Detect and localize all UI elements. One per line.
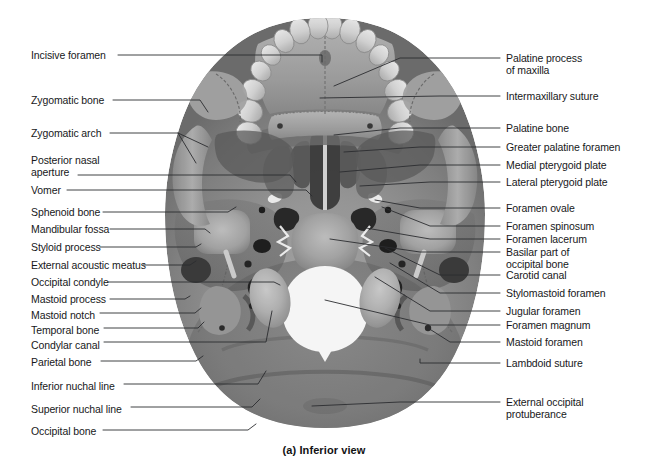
label-zygomatic-arch: Zygomatic arch [31, 128, 101, 140]
label-mandibular-fossa: Mandibular fossa [31, 224, 109, 236]
label-external-occipital-protuberance: External occipital protuberance [506, 397, 584, 420]
label-basilar-part-of-occipital-bone: Basilar part of occipital bone [506, 247, 569, 270]
label-zygomatic-bone: Zygomatic bone [31, 95, 104, 107]
label-condylar-canal: Condylar canal [31, 340, 100, 352]
label-lateral-pterygoid-plate: Lateral pterygoid plate [506, 177, 608, 189]
label-greater-palatine-foramen: Greater palatine foramen [506, 142, 620, 154]
label-external-acoustic-meatus: External acoustic meatus [31, 260, 146, 272]
skull-inferior-view-figure: Incisive foramenZygomatic boneZygomatic … [0, 0, 648, 474]
label-foramen-spinosum: Foramen spinosum [506, 221, 594, 233]
label-temporal-bone: Temporal bone [31, 325, 99, 337]
figure-caption: (a) Inferior view [0, 444, 648, 456]
label-incisive-foramen: Incisive foramen [31, 50, 106, 62]
label-posterior-nasal-aperture: Posterior nasal aperture [31, 155, 100, 178]
label-styloid-process: Styloid process [31, 242, 101, 254]
label-vomer: Vomer [31, 185, 61, 197]
label-carotid-canal: Carotid canal [506, 270, 567, 282]
label-medial-pterygoid-plate: Medial pterygoid plate [506, 160, 607, 172]
label-lambdoid-suture: Lambdoid suture [506, 358, 583, 370]
label-sphenoid-bone: Sphenoid bone [31, 207, 100, 219]
label-mastoid-notch: Mastoid notch [31, 310, 95, 322]
label-superior-nuchal-line: Superior nuchal line [31, 404, 122, 416]
skull-illustration [160, 14, 490, 438]
label-mastoid-process: Mastoid process [31, 294, 106, 306]
label-foramen-magnum: Foramen magnum [506, 320, 590, 332]
label-foramen-ovale: Foramen ovale [506, 203, 575, 215]
label-jugular-foramen: Jugular foramen [506, 306, 580, 318]
label-palatine-bone: Palatine bone [506, 123, 569, 135]
label-palatine-process-of-maxilla: Palatine process of maxilla [506, 53, 582, 76]
label-occipital-bone: Occipital bone [31, 426, 96, 438]
label-stylomastoid-foramen: Stylomastoid foramen [506, 288, 606, 300]
label-occipital-condyle: Occipital condyle [31, 277, 109, 289]
label-parietal-bone: Parietal bone [31, 357, 92, 369]
label-inferior-nuchal-line: Inferior nuchal line [31, 381, 115, 393]
cranial-base [160, 14, 490, 438]
label-intermaxillary-suture: Intermaxillary suture [506, 91, 598, 103]
label-foramen-lacerum: Foramen lacerum [506, 234, 587, 246]
label-mastoid-foramen: Mastoid foramen [506, 337, 583, 349]
